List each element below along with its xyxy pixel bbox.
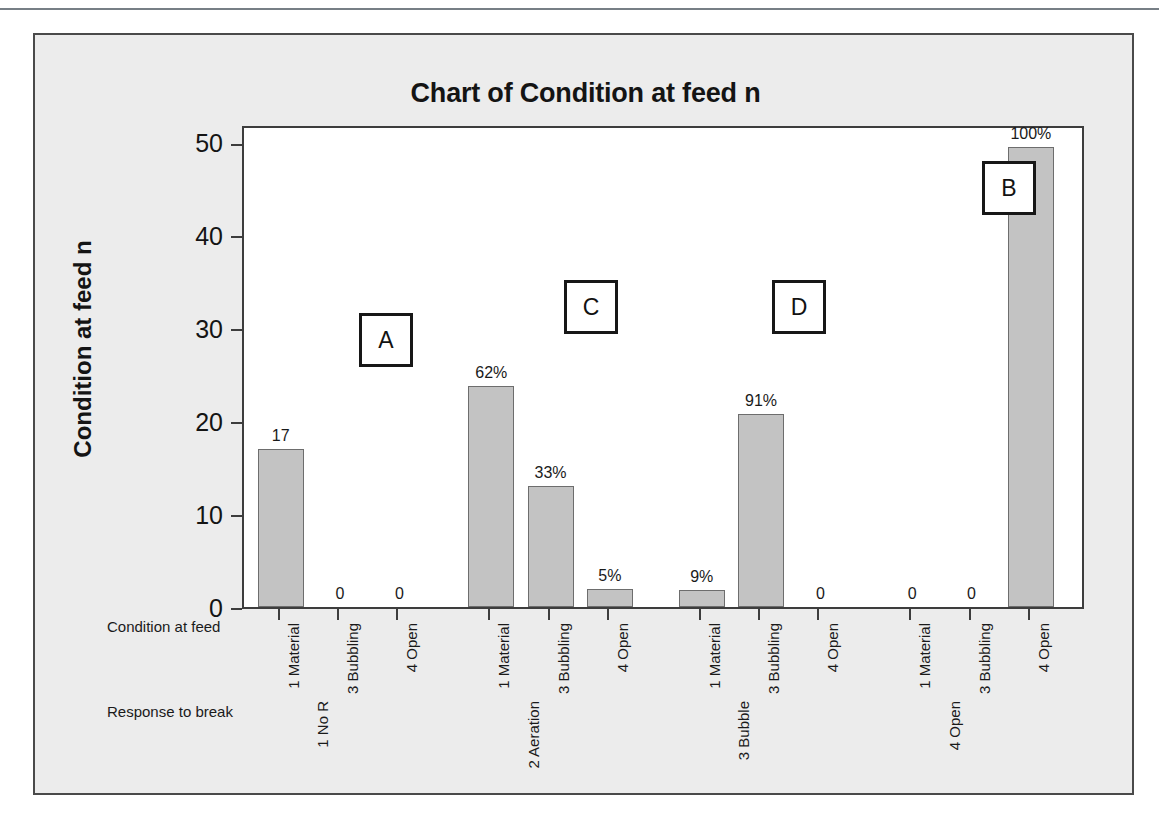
x-tick-mark [548, 609, 550, 620]
annotation-box: D [772, 280, 826, 334]
y-tick-mark [231, 236, 242, 238]
bar-value-label: 0 [395, 585, 404, 603]
bar-value-label: 17 [272, 427, 290, 445]
bar-value-label: 33% [535, 464, 567, 482]
y-tick-label: 40 [195, 224, 223, 249]
x-tick-mark [337, 609, 339, 620]
x-category-label: 3 Bubbling [976, 623, 993, 694]
x-tick-mark [909, 609, 911, 620]
page-top-rule [0, 8, 1159, 10]
bar [258, 449, 304, 607]
x-tick-mark [699, 609, 701, 620]
x-axis: 1 Material3 Bubbling1 No R4 Open1 Materi… [242, 609, 1084, 799]
bar-value-label: 0 [967, 585, 976, 603]
bars-layer: 170062%33%5%9%91%000100%ACDB [244, 128, 1082, 607]
annotation-box: B [982, 161, 1036, 215]
x-category-label: 1 Material [706, 623, 723, 689]
x-category-label: 1 Material [285, 623, 302, 689]
bar [468, 386, 514, 607]
y-tick-label: 0 [209, 596, 223, 621]
y-tick-label: 10 [195, 503, 223, 528]
x-tick-mark [396, 609, 398, 620]
x-category-label: 1 Material [916, 623, 933, 689]
bar-value-label: 0 [816, 585, 825, 603]
bar-value-label: 91% [745, 392, 777, 410]
bar [587, 589, 633, 607]
y-axis-ticks: 01020304050 [35, 126, 242, 609]
x-category-label: 4 Open [1035, 623, 1052, 672]
x-tick-mark [1028, 609, 1030, 620]
y-tick-label: 20 [195, 410, 223, 435]
x-tick-mark [817, 609, 819, 620]
x-category-label: 4 Open [614, 623, 631, 672]
bar-value-label: 9% [690, 568, 713, 586]
bar-value-label: 100% [1010, 125, 1051, 143]
y-tick-mark [231, 144, 242, 146]
x-tick-mark [278, 609, 280, 620]
y-tick-label: 30 [195, 317, 223, 342]
annotation-box: C [564, 280, 618, 334]
axis-row-title-outer: Response to break [107, 703, 233, 720]
x-tick-mark [488, 609, 490, 620]
annotation-box: A [359, 313, 413, 367]
x-category-label: 4 Open [824, 623, 841, 672]
y-tick-mark [231, 515, 242, 517]
bar-value-label: 5% [598, 567, 621, 585]
x-group-label: 3 Bubble [735, 701, 752, 760]
bar [1008, 147, 1054, 607]
y-tick-mark [231, 329, 242, 331]
x-tick-mark [607, 609, 609, 620]
x-category-label: 3 Bubbling [765, 623, 782, 694]
bar-value-label: 0 [908, 585, 917, 603]
x-category-label: 3 Bubbling [555, 623, 572, 694]
x-category-label: 3 Bubbling [344, 623, 361, 694]
x-group-label: 1 No R [314, 701, 331, 748]
x-group-label: 2 Aeration [525, 701, 542, 769]
x-group-label: 4 Open [946, 701, 963, 750]
y-tick-mark [231, 422, 242, 424]
x-tick-mark [969, 609, 971, 620]
bar [738, 414, 784, 607]
x-category-label: 1 Material [495, 623, 512, 689]
bar [528, 486, 574, 607]
plot-area: 170062%33%5%9%91%000100%ACDB [242, 126, 1084, 609]
bar-value-label: 0 [336, 585, 345, 603]
chart-frame: Chart of Condition at feed n Condition a… [33, 33, 1134, 795]
axis-row-title-inner: Condition at feed [107, 618, 220, 635]
y-tick-label: 50 [195, 131, 223, 156]
x-category-label: 4 Open [403, 623, 420, 672]
bar-value-label: 62% [475, 364, 507, 382]
chart-title: Chart of Condition at feed n [35, 78, 1136, 109]
bar [679, 590, 725, 607]
x-tick-mark [758, 609, 760, 620]
y-tick-mark [231, 608, 242, 610]
